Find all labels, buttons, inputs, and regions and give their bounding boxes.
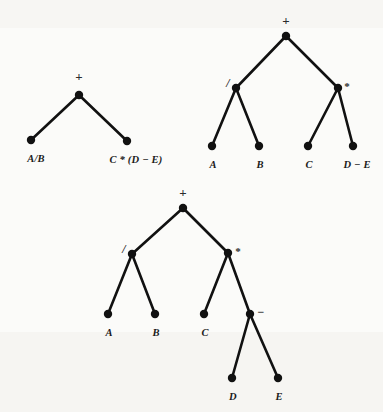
tree-node-dot (274, 374, 282, 382)
operand-label: C (201, 327, 208, 338)
operand-label: A (105, 327, 112, 338)
tree-node-dot (151, 310, 159, 318)
tree-edge (228, 253, 250, 314)
operand-label: B (152, 327, 159, 338)
tree-edge (108, 254, 132, 314)
tree-edge (132, 254, 155, 314)
operand-label: E (275, 391, 282, 402)
operator-label: + (179, 185, 186, 201)
tree-node-dot (200, 310, 208, 318)
tree-edge (232, 314, 250, 378)
operator-label: − (258, 305, 265, 320)
tree-edge (132, 208, 183, 254)
tree-edge (250, 314, 278, 378)
tree-node-dot (128, 250, 136, 258)
tree-node-dot (228, 374, 236, 382)
tree-node-dot (104, 310, 112, 318)
expression-tree-figure: +A/BC * (D − E)+/*ABCD − E+/*ABC−DE (0, 0, 383, 412)
tree-node-dot (179, 204, 187, 212)
tree-3-edges (0, 0, 383, 412)
operator-label: * (235, 245, 241, 257)
tree-node-dot (246, 310, 254, 318)
tree-edge (183, 208, 228, 253)
operand-label: D (229, 391, 237, 402)
tree-node-dot (224, 249, 232, 257)
tree-edge (204, 253, 228, 314)
operator-label: / (122, 242, 125, 257)
